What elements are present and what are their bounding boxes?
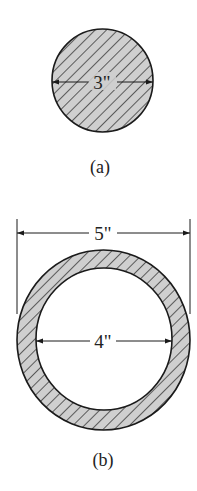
figure-b — [17, 219, 190, 430]
caption-b: (b) — [93, 450, 114, 471]
dimension-label-4in: 4" — [94, 331, 111, 352]
diagram-canvas: 3" (a) 5" 4" (b) — [0, 0, 197, 491]
dimension-label-5in: 5" — [94, 223, 111, 244]
caption-a: (a) — [90, 157, 110, 178]
dimension-label-3in: 3" — [93, 72, 110, 93]
